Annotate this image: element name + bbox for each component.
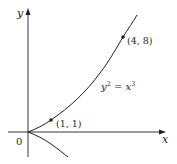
y-axis — [26, 8, 31, 157]
origin-label: 0 — [16, 136, 22, 147]
equation-label: y2 = x3 — [100, 80, 135, 92]
x-axis-label: x — [162, 133, 169, 146]
y-axis-arrow-icon — [26, 8, 31, 15]
point-1-1-marker — [49, 118, 53, 122]
graph-canvas: y x 0 (1, 1) (4, 8) y2 = x3 — [0, 0, 177, 164]
point-4-8-label: (4, 8) — [127, 35, 153, 46]
point-1-1-label: (1, 1) — [56, 118, 82, 129]
point-4-8-marker — [121, 35, 125, 39]
curve-upper-branch — [28, 15, 137, 132]
y-axis-label: y — [16, 7, 24, 20]
curve-lower-branch — [28, 132, 68, 157]
